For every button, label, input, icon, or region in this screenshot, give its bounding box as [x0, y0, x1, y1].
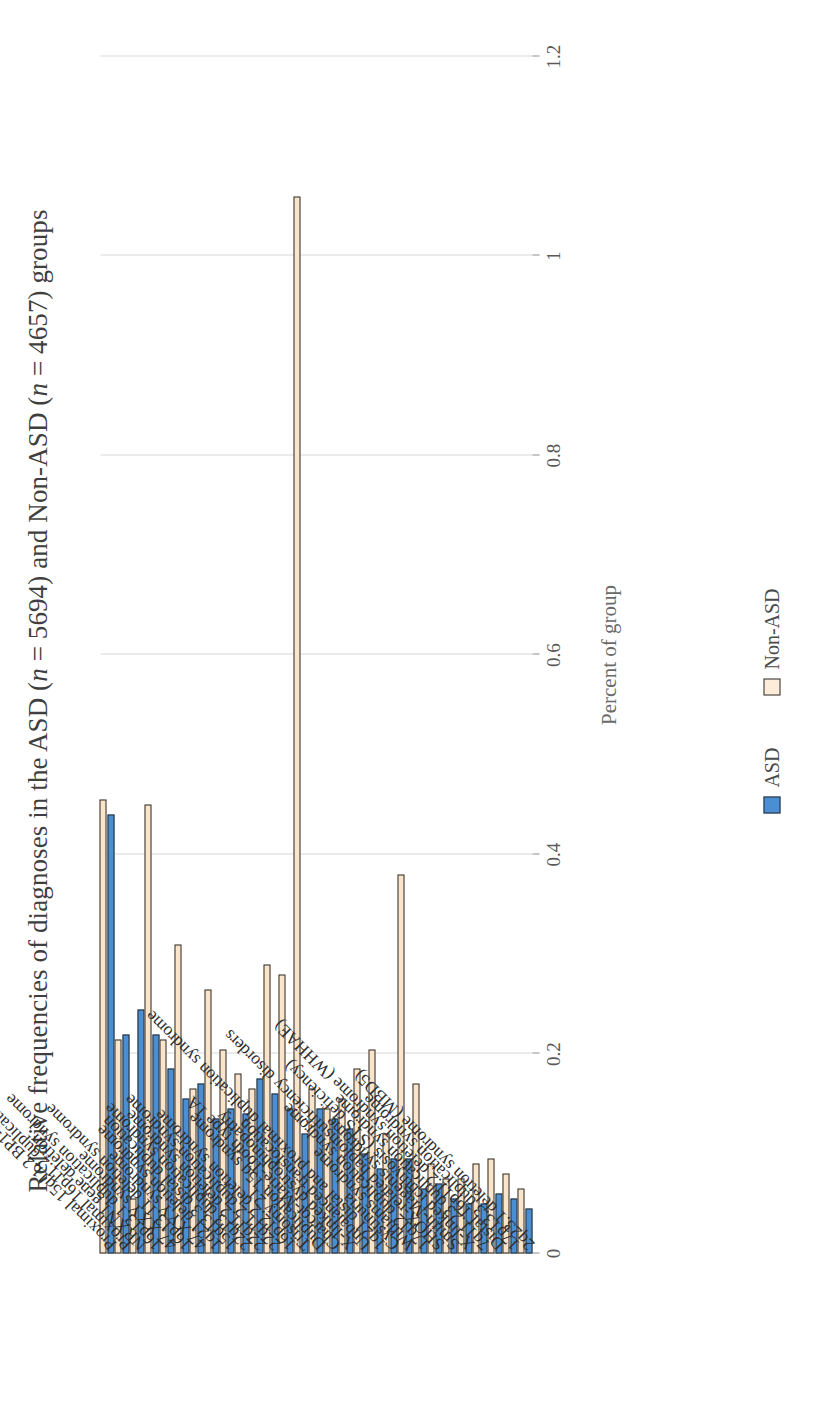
legend-label: Non-ASD — [760, 588, 782, 669]
figure: Relative frequencies of diagnoses in the… — [0, 0, 820, 1401]
category-axis-labels: Proximal 15q11.2 BP1-BP2 deletion syndro… — [0, 0, 820, 1401]
chart-legend: ASDNon-ASD — [760, 0, 783, 1401]
rotated-figure-wrapper: Relative frequencies of diagnoses in the… — [0, 0, 820, 1401]
legend-item[interactable]: ASD — [760, 747, 783, 813]
legend-label: ASD — [760, 747, 782, 787]
legend-item[interactable]: Non-ASD — [760, 588, 783, 695]
legend-swatch — [763, 796, 780, 813]
legend-swatch — [763, 678, 780, 695]
